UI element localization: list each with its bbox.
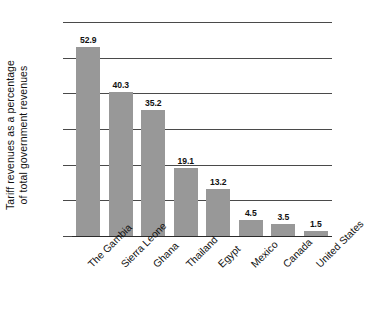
- x-axis-label: Egypt: [216, 243, 242, 269]
- bar-value-label: 52.9: [65, 36, 111, 45]
- bar: [304, 231, 328, 236]
- y-tick-mark: [63, 93, 72, 94]
- bar-value-label: 35.2: [130, 99, 176, 108]
- x-axis-label-text: Thailand: [184, 234, 220, 270]
- y-axis-title-line-2: of total government revenues: [17, 66, 30, 205]
- x-axis-label-text: Mexico: [249, 239, 280, 270]
- bar: [271, 224, 295, 236]
- bar: [76, 47, 100, 236]
- bar: [141, 110, 165, 236]
- x-axis-label: Mexico: [249, 239, 280, 270]
- gridline: [72, 22, 332, 23]
- y-axis-title-line-1: Tariff revenues as a percentage: [4, 60, 17, 210]
- x-axis-label-text: Canada: [281, 236, 314, 269]
- x-axis-label-text: Egypt: [216, 243, 242, 269]
- y-tick-mark: [63, 236, 72, 237]
- y-axis-title: Tariff revenues as a percentage of total…: [0, 15, 34, 255]
- y-tick-mark: [63, 200, 72, 201]
- bar-value-label: 40.3: [98, 81, 144, 90]
- x-axis-label: Thailand: [184, 234, 220, 270]
- y-tick-mark: [63, 129, 72, 130]
- bar: [206, 189, 230, 236]
- bar-value-label: 19.1: [163, 157, 209, 166]
- bar-value-label: 13.2: [195, 178, 241, 187]
- bar: [109, 92, 133, 236]
- plot-area: 0102030405060 52.940.335.219.113.24.53.5…: [72, 22, 332, 236]
- x-axis-label: Canada: [281, 236, 314, 269]
- x-axis-label-text: Ghana: [151, 240, 181, 270]
- x-axis-label: Ghana: [151, 240, 181, 270]
- y-tick-mark: [63, 22, 72, 23]
- y-tick-mark: [63, 165, 72, 166]
- bar: [174, 168, 198, 236]
- y-tick-mark: [63, 58, 72, 59]
- gridline: [72, 58, 332, 59]
- bar-value-label: 1.5: [293, 220, 339, 229]
- bar: [239, 220, 263, 236]
